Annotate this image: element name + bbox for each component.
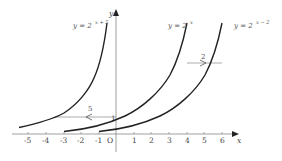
- curve-label-2-pow-x-minus-2: y = 2 x − 2: [233, 19, 269, 30]
- curve-label-2-pow-x: y = 2 x: [167, 19, 193, 30]
- curve-2-pow-x-minus-2: [99, 23, 222, 132]
- shift-5-label: 5: [88, 105, 92, 113]
- y-axis-arrow-icon: [113, 9, 119, 16]
- y-axis: [113, 9, 119, 152]
- svg-text:x − 2: x − 2: [256, 19, 269, 25]
- origin-label: O: [107, 136, 113, 145]
- tick-label: 2: [149, 136, 154, 145]
- tick-label: 5: [202, 136, 207, 145]
- tick-label: -3: [60, 136, 68, 145]
- svg-text:y = 2: y = 2: [72, 22, 92, 30]
- tick-label: 3: [167, 136, 172, 145]
- svg-text:x + 5: x + 5: [95, 19, 108, 25]
- svg-text:y = 2: y = 2: [167, 22, 187, 30]
- x-axis-label: x: [237, 136, 242, 145]
- tick-label: 6: [220, 136, 225, 145]
- tick-label: -1: [95, 136, 102, 145]
- curve-label-2-pow-x-plus-5: y = 2 x + 5: [72, 19, 108, 30]
- tick-label: 1: [132, 136, 137, 145]
- curve-2-pow-x: [64, 23, 187, 132]
- graph: -5 -4 -3 -2 -1 1 2 3 4 5 6 O x y 1 5 2 y…: [0, 0, 282, 161]
- curve-2-pow-x-plus-5: [19, 23, 107, 128]
- svg-text:y = 2: y = 2: [233, 22, 253, 30]
- tick-label: -5: [24, 136, 32, 145]
- tick-label: -2: [77, 136, 85, 145]
- x-tick-labels: -5 -4 -3 -2 -1 1 2 3 4 5 6: [24, 136, 225, 145]
- svg-text:x: x: [190, 19, 193, 25]
- shift-2-label: 2: [201, 53, 205, 61]
- tick-label: 4: [185, 136, 190, 145]
- tick-label: -4: [42, 136, 50, 145]
- y-axis-label: y: [108, 9, 114, 18]
